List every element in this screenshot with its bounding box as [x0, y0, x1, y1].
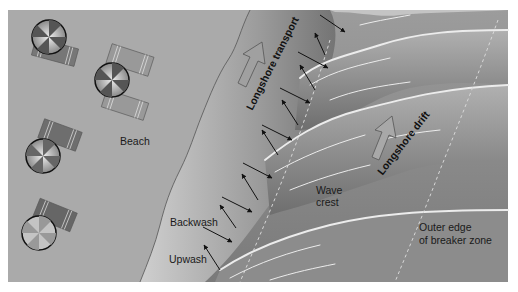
label-breaker-zone-1: Outer edge: [419, 221, 472, 233]
label-wave-crest-1: Wave: [316, 184, 342, 196]
beach-umbrella-icon: [95, 63, 129, 97]
label-beach: Beach: [120, 135, 150, 147]
beach-umbrella-icon: [32, 20, 66, 54]
beach-umbrella-icon: [26, 139, 60, 173]
beach-umbrella-icon: [22, 216, 56, 250]
longshore-transport-diagram: [0, 0, 518, 292]
label-upwash: Upwash: [169, 253, 207, 265]
label-backwash: Backwash: [170, 216, 218, 228]
label-wave-crest-2: crest: [316, 196, 339, 208]
label-breaker-zone-2: of breaker zone: [419, 234, 492, 246]
